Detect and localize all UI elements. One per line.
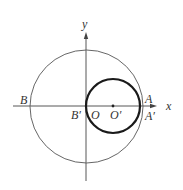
center-point-o-prime [112, 105, 115, 108]
label-a: A [145, 93, 152, 105]
y-axis-arrow-icon [84, 32, 88, 39]
label-o: O [91, 109, 100, 121]
label-x: x [166, 100, 171, 112]
label-b: B [20, 94, 27, 106]
label-o-prime: O′ [110, 109, 121, 121]
label-y: y [82, 18, 87, 30]
label-a-prime: A′ [145, 110, 155, 122]
circles-diagram [0, 0, 183, 190]
diagram-canvas: y x B B′ O O′ A A′ [0, 0, 183, 190]
label-b-prime: B′ [71, 109, 81, 121]
